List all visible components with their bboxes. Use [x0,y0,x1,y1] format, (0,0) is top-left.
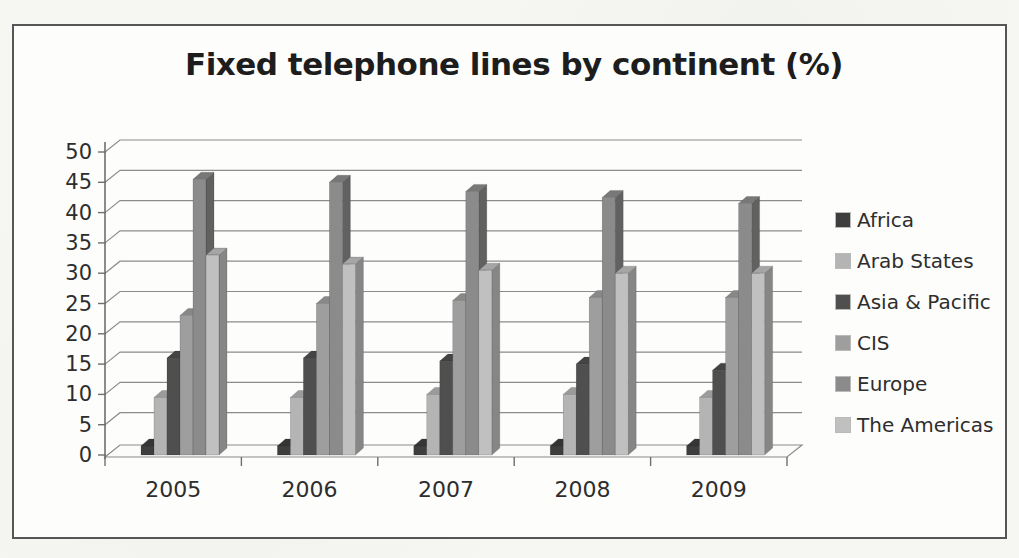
chart-frame: Fixed telephone lines by continent (%) 0… [12,24,1007,539]
bar-CIS-2008 [589,297,602,455]
y-axis-label: 20 [65,322,92,346]
x-axis-label: 2009 [691,477,747,502]
bar-Arab States-2008 [563,394,576,455]
legend-label: Arab States [857,249,974,273]
legend-swatch-icon [836,377,850,391]
bar-Asia & Pacific-2006 [303,358,316,455]
legend-swatch-icon [836,336,850,350]
bar-CIS-2007 [453,300,466,455]
legend-item-the-americas: The Americas [836,411,993,438]
scanned-page: Fixed telephone lines by continent (%) 0… [0,0,1019,558]
bar-side-The Americas-2005 [219,248,227,455]
legend-item-cis: CIS [836,329,993,356]
bar-Arab States-2007 [427,394,440,455]
legend-swatch-icon [836,254,850,268]
bar-Asia & Pacific-2007 [440,361,453,455]
bar-Europe-2008 [602,197,615,455]
legend-swatch-icon [836,295,850,309]
bar-Asia & Pacific-2005 [167,358,180,455]
legend-item-arab-states: Arab States [836,247,993,274]
bar-Arab States-2006 [290,397,303,455]
bar-Africa-2008 [550,446,563,455]
bar-side-The Americas-2007 [492,263,500,455]
bar-side-The Americas-2008 [628,266,636,455]
bar-CIS-2009 [726,297,739,455]
legend-swatch-icon [836,213,850,227]
x-axis-label: 2007 [418,477,474,502]
bar-Africa-2009 [687,446,700,455]
y-axis-label: 5 [79,413,92,437]
legend-item-europe: Europe [836,370,993,397]
y-axis-label: 25 [65,292,92,316]
y-axis-label: 45 [65,170,92,194]
bar-Europe-2005 [193,179,206,455]
x-axis-label: 2008 [554,477,610,502]
legend-label: Europe [857,372,927,396]
legend-item-africa: Africa [836,206,993,233]
bar-side-The Americas-2009 [765,266,773,455]
bar-The Americas-2007 [479,270,492,455]
bar-The Americas-2005 [206,255,219,455]
y-axis-label: 10 [65,382,92,406]
bar-Africa-2006 [277,446,290,455]
legend-label: The Americas [857,413,993,437]
bar-Africa-2005 [141,446,154,455]
bar-The Americas-2006 [342,264,355,455]
y-axis-label: 30 [65,261,92,285]
bar-side-The Americas-2006 [355,257,363,455]
y-axis-label: 50 [65,140,92,164]
x-axis-label: 2006 [282,477,338,502]
legend-item-asia-pacific: Asia & Pacific [836,288,993,315]
chart-legend: AfricaArab StatesAsia & PacificCISEurope… [836,206,993,452]
bar-Arab States-2009 [700,397,713,455]
bar-The Americas-2009 [752,273,765,455]
legend-label: Africa [857,208,914,232]
bar-Africa-2007 [414,446,427,455]
gridline [105,140,802,152]
x-axis-label: 2005 [145,477,201,502]
bar-Europe-2009 [739,204,752,455]
bar-CIS-2005 [180,316,193,455]
bar-Arab States-2005 [154,397,167,455]
bar-The Americas-2008 [615,273,628,455]
legend-swatch-icon [836,418,850,432]
bar-Asia & Pacific-2008 [576,364,589,455]
bar-Europe-2006 [329,182,342,455]
legend-label: CIS [857,331,890,355]
y-axis-label: 0 [79,443,92,467]
y-axis-label: 35 [65,231,92,255]
bar-CIS-2006 [316,304,329,456]
bar-Asia & Pacific-2009 [713,370,726,455]
y-axis-label: 15 [65,352,92,376]
bar-Europe-2007 [466,191,479,455]
y-axis-label: 40 [65,201,92,225]
legend-label: Asia & Pacific [857,290,991,314]
